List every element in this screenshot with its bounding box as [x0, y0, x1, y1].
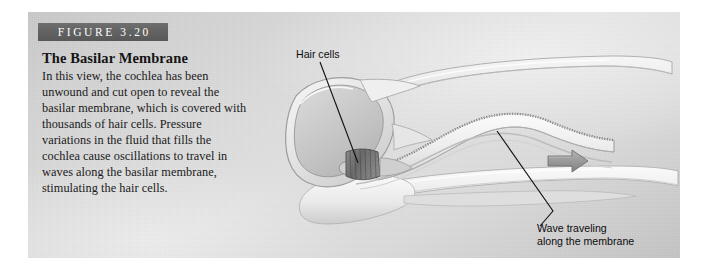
label-wave-traveling: Wave traveling along the membrane: [537, 222, 634, 248]
label-wave-line1: Wave traveling: [537, 222, 634, 235]
label-wave-line2: along the membrane: [537, 235, 634, 248]
figure-caption: The Basilar Membrane In this view, the c…: [42, 50, 248, 197]
figure-description: In this view, the cochlea has been unwou…: [42, 69, 248, 197]
figure-number-banner: FIGURE 3.20: [38, 23, 168, 41]
figure-page: FIGURE 3.20 The Basilar Membrane In this…: [0, 0, 707, 277]
figure-number-label: FIGURE 3.20: [55, 26, 151, 38]
label-hair-cells: Hair cells: [296, 48, 340, 61]
figure-title: The Basilar Membrane: [42, 50, 248, 67]
